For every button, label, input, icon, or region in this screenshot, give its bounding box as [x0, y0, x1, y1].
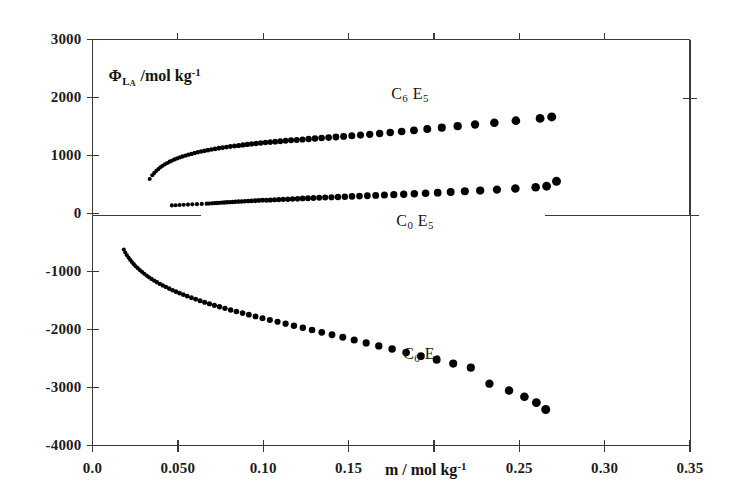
data-point [485, 379, 493, 387]
series-label-c6e5: C6E5 [391, 85, 428, 104]
data-point [318, 135, 325, 142]
data-point [202, 300, 207, 305]
x-axis-title: m / mol kg-1 [385, 460, 467, 479]
series-label-c6e0: C6E0 [403, 345, 440, 364]
chart-figure: 3000200010000-1000-2000-3000-4000 0.00.0… [0, 0, 734, 495]
y-axis-title-unit: /mol kg [141, 68, 192, 85]
data-point [467, 364, 475, 372]
series-label-c6e0-c-subscript: 6 [414, 352, 420, 364]
series-label-c6e0-e: E [425, 345, 435, 362]
data-point [386, 129, 394, 137]
y-tick-label: -1000 [5, 263, 82, 280]
data-point [363, 339, 370, 346]
data-point [388, 345, 395, 352]
x-tick-label: 0.30 [575, 460, 635, 477]
series-label-c0e5-c-subscript: 0 [407, 219, 413, 231]
data-point [272, 139, 278, 145]
data-point [541, 405, 550, 414]
y-tick-label: 3000 [5, 31, 82, 48]
data-point [381, 192, 388, 199]
data-point [310, 195, 316, 201]
data-point [240, 310, 246, 316]
series-label-c0e5: C0E5 [396, 212, 433, 231]
data-point [461, 187, 469, 195]
data-point [349, 193, 356, 200]
y-tick-label: 0 [5, 205, 82, 222]
data-point [372, 192, 379, 199]
data-point [207, 301, 212, 306]
data-point [505, 386, 514, 395]
series-c0e5-points [170, 177, 561, 208]
data-point [189, 295, 194, 300]
data-point [190, 202, 194, 206]
data-point [422, 189, 430, 197]
data-point [217, 304, 222, 309]
data-point [335, 194, 341, 200]
data-point [490, 118, 499, 127]
y-axis-title-exponent: -1 [192, 66, 201, 78]
data-point [322, 194, 328, 200]
data-point [493, 185, 501, 193]
x-tick-label: 0.0 [63, 460, 123, 477]
series-label-c0e5-e-subscript: 5 [428, 219, 434, 231]
data-point [390, 191, 397, 198]
data-point [316, 195, 322, 201]
data-point [174, 203, 178, 207]
series-c6e5-points [148, 112, 557, 181]
series-label-c6e0-c: C [403, 345, 414, 362]
data-point [411, 190, 418, 197]
data-point [274, 319, 280, 325]
data-point [351, 337, 358, 344]
data-point [357, 132, 364, 139]
data-point [309, 327, 316, 334]
series-c6e0-points [122, 247, 551, 414]
x-tick-label: 0.050 [148, 460, 208, 477]
data-point [531, 183, 540, 192]
data-point [340, 133, 347, 140]
data-point [283, 138, 289, 144]
y-tick-label: -2000 [5, 321, 82, 338]
data-point [267, 139, 273, 145]
data-point [542, 182, 551, 191]
data-point [366, 131, 373, 138]
x-axis-title-exponent: -1 [457, 460, 466, 472]
x-tick-label: 0.25 [489, 460, 549, 477]
data-point [253, 141, 258, 146]
data-point [263, 140, 269, 146]
data-point [423, 125, 431, 133]
y-tick-label: -3000 [5, 379, 82, 396]
data-point [476, 186, 484, 194]
data-point [532, 398, 541, 407]
y-tick-label: -4000 [5, 437, 82, 454]
data-point [325, 134, 332, 141]
data-point [299, 136, 305, 142]
y-tick-label: 2000 [5, 89, 82, 106]
data-point [291, 323, 297, 329]
data-point [438, 124, 446, 132]
data-point [198, 298, 203, 303]
data-point [178, 203, 182, 207]
data-point [364, 192, 371, 199]
data-point [447, 188, 455, 196]
data-point [200, 202, 204, 206]
y-axis-title-symbol: Φ [109, 68, 122, 85]
series-label-c6e5-c: C [391, 85, 402, 102]
data-point [305, 136, 311, 142]
data-point [342, 193, 348, 199]
data-point [195, 202, 199, 206]
series-label-c6e5-e: E [413, 85, 423, 102]
data-point [305, 195, 311, 201]
data-point [253, 313, 259, 319]
data-point [398, 128, 406, 136]
data-point [267, 317, 273, 323]
data-point [186, 203, 190, 207]
data-point [193, 297, 198, 302]
y-axis-title: ΦLA/mol kg-1 [109, 66, 201, 88]
data-point [148, 177, 152, 181]
data-point [552, 177, 561, 186]
data-point [434, 189, 442, 197]
data-point [512, 116, 521, 125]
series-label-c6e5-c-subscript: 6 [402, 92, 408, 104]
data-point [295, 196, 301, 202]
data-point [547, 112, 556, 121]
